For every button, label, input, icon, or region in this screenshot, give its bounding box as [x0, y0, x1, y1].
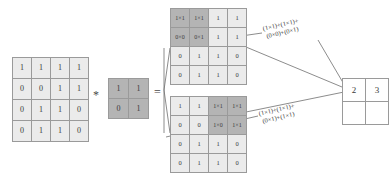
fmap-bottom-cell: 1 [171, 97, 190, 116]
fmap-bottom-cell: 0 [228, 154, 247, 173]
equals-operator: = [154, 86, 161, 98]
fmap-top-cell: 1 [209, 28, 228, 47]
fmap-top-cell: 0 [228, 66, 247, 85]
kernel-cell: 0 [109, 99, 129, 119]
input-cell: 1 [51, 79, 70, 100]
input-cell: 1 [51, 58, 70, 79]
fmap-top-cell: 0 [228, 47, 247, 66]
fmap-top-cell: 1 [228, 28, 247, 47]
fmap-top-cell: 0 [171, 66, 190, 85]
fmap-bottom-cell: 1 [209, 135, 228, 154]
table-row: 0×0 0×1 1 1 [171, 28, 247, 47]
input-cell: 1 [70, 58, 89, 79]
result-cell-empty [343, 102, 366, 125]
fmap-bottom-cell: 1 [209, 154, 228, 173]
input-cell: 0 [13, 79, 32, 100]
leader-line-top-result [318, 40, 345, 86]
fmap-bottom-cell: 0 [171, 154, 190, 173]
table-row: 0 0 1×0 1×1 [171, 116, 247, 135]
fmap-bottom-cell: 1 [190, 154, 209, 173]
kernel-cell: 1 [109, 79, 129, 99]
table-row: 0 1 1 0 [171, 135, 247, 154]
fmap-top-cell: 1 [209, 47, 228, 66]
formula-top: (1×1)+(1×1)+ (0×0)+(0×1) [262, 17, 301, 41]
fmap-top-cell: 1 [209, 9, 228, 28]
kernel-matrix: 1 1 0 1 [108, 78, 149, 119]
input-cell: 0 [70, 100, 89, 121]
fmap-top-cell-highlight: 0×1 [190, 28, 209, 47]
table-row: 2 3 [343, 79, 389, 102]
feature-map-top: 1×1 1×1 1 1 0×0 0×1 1 1 0 1 1 0 0 1 1 0 [170, 8, 247, 85]
result-cell-empty [366, 102, 389, 125]
fmap-top-cell: 1 [190, 66, 209, 85]
table-row: 1 1 1 1 [13, 58, 89, 79]
table-row: 1 1 [109, 79, 149, 99]
fmap-bottom-cell: 0 [190, 116, 209, 135]
fmap-top-cell: 1 [228, 9, 247, 28]
fmap-top-cell: 1 [209, 66, 228, 85]
table-row: 0 0 1 1 [13, 79, 89, 100]
kernel-cell: 1 [129, 79, 149, 99]
table-row: 0 1 1 0 [13, 121, 89, 142]
input-cell: 0 [32, 79, 51, 100]
fmap-bottom-cell: 0 [171, 135, 190, 154]
fmap-bottom-cell: 0 [228, 135, 247, 154]
fmap-top-cell: 1 [190, 47, 209, 66]
table-row: 0 1 1 0 [13, 100, 89, 121]
input-cell: 1 [32, 121, 51, 142]
fmap-top-cell: 0 [171, 47, 190, 66]
fmap-top-cell-highlight: 1×1 [190, 9, 209, 28]
convolution-operator: * [93, 89, 99, 101]
fmap-bottom-cell: 1 [190, 135, 209, 154]
fmap-bottom-cell: 0 [171, 116, 190, 135]
convolution-diagram: 1 1 1 1 0 0 1 1 0 1 1 0 0 1 1 0 * 1 1 [0, 0, 392, 180]
kernel-cell: 1 [129, 99, 149, 119]
input-cell: 0 [13, 100, 32, 121]
input-cell: 1 [70, 79, 89, 100]
input-cell: 0 [70, 121, 89, 142]
fmap-bottom-cell-highlight: 1×1 [209, 97, 228, 116]
input-cell: 1 [51, 100, 70, 121]
leader-line-top-to-result [246, 47, 342, 87]
fmap-top-cell-highlight: 0×0 [171, 28, 190, 47]
table-row: 1×1 1×1 1 1 [171, 9, 247, 28]
fmap-top-cell-highlight: 1×1 [171, 9, 190, 28]
input-cell: 1 [32, 100, 51, 121]
input-matrix: 1 1 1 1 0 0 1 1 0 1 1 0 0 1 1 0 [12, 57, 89, 142]
result-cell: 3 [366, 79, 389, 102]
result-cell: 2 [343, 79, 366, 102]
fmap-bottom-cell: 1 [190, 97, 209, 116]
table-row: 0 1 1 0 [171, 47, 247, 66]
table-row: 0 1 1 0 [171, 154, 247, 173]
fmap-bottom-cell-highlight: 1×0 [209, 116, 228, 135]
feature-map-bottom: 1 1 1×1 1×1 0 0 1×0 1×1 0 1 1 0 0 1 1 0 [170, 96, 247, 173]
table-row: 0 1 [109, 99, 149, 119]
fmap-bottom-cell-highlight: 1×1 [228, 97, 247, 116]
input-cell: 1 [32, 58, 51, 79]
fmap-bottom-cell-highlight: 1×1 [228, 116, 247, 135]
input-cell: 1 [51, 121, 70, 142]
input-cell: 1 [13, 58, 32, 79]
input-cell: 0 [13, 121, 32, 142]
table-row [343, 102, 389, 125]
result-matrix: 2 3 [342, 78, 389, 125]
formula-bottom: (1×1)+(1×1)+ (0×1)+(1×1) [258, 102, 297, 126]
table-row: 0 1 1 0 [171, 66, 247, 85]
table-row: 1 1 1×1 1×1 [171, 97, 247, 116]
